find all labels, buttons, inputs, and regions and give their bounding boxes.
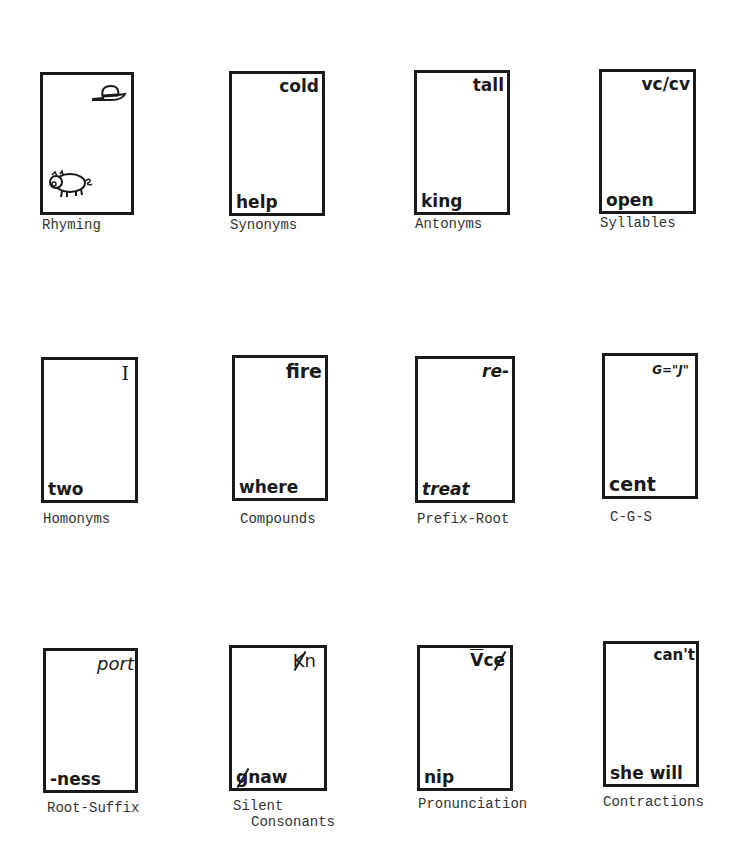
card-top-word: cold	[279, 78, 319, 95]
card-bottom-word: help	[236, 194, 278, 211]
card-label: Rhyming	[42, 217, 101, 233]
word-rest: n	[305, 650, 316, 671]
card-synonyms: cold help	[229, 71, 325, 216]
card-label: Synonyms	[230, 217, 297, 233]
card-homonyms: I two	[41, 357, 138, 503]
card-label: Antonyms	[415, 216, 482, 232]
label-line2: Consonants	[233, 814, 335, 830]
card-top-word: G="J"	[652, 364, 689, 376]
card-top-word: re-	[482, 363, 509, 380]
card-top-word: tall	[473, 77, 504, 94]
card-label: Pronunciation	[418, 796, 527, 812]
struck-letter: K	[293, 652, 305, 670]
hat-icon	[91, 83, 127, 108]
struck-letter: e	[493, 652, 505, 669]
card-top-word: Vce	[470, 652, 505, 669]
card-top-word: port	[97, 655, 134, 673]
card-rhyming	[40, 72, 134, 215]
card-top-word: can't	[654, 648, 695, 663]
card-bottom-word: nip	[424, 769, 454, 786]
macron-letter: V	[470, 650, 483, 670]
card-prefix-root: re- treat	[415, 356, 515, 503]
card-silent-consonants: Kn gnaw	[229, 645, 327, 791]
card-syllables: vc/cv open	[599, 69, 696, 214]
card-root-suffix: port -ness	[43, 648, 138, 793]
card-pronunciation: Vce nip	[417, 645, 513, 791]
card-top-word: I	[121, 364, 129, 383]
card-label: Compounds	[240, 511, 316, 527]
card-contractions: can't she will	[603, 641, 699, 787]
card-bottom-word: cent	[609, 475, 656, 494]
card-bottom-word: -ness	[50, 771, 101, 788]
card-bottom-word: king	[421, 193, 462, 210]
card-compounds: fire where	[232, 355, 328, 501]
card-label: Syllables	[600, 215, 676, 231]
card-bottom-word: she will	[610, 765, 683, 782]
card-c-g-s: G="J" cent	[602, 353, 698, 499]
card-bottom-word: open	[606, 192, 653, 209]
card-bottom-word: two	[48, 481, 84, 498]
struck-letter: g	[236, 769, 248, 786]
card-label: Prefix-Root	[417, 511, 509, 527]
card-top-word: Kn	[293, 652, 316, 670]
card-bottom-word: treat	[422, 481, 470, 498]
card-label: Contractions	[603, 794, 704, 810]
card-label: Homonyms	[43, 511, 110, 527]
word-mid: c	[483, 650, 493, 670]
card-label: C-G-S	[610, 509, 652, 525]
card-label: Root-Suffix	[47, 800, 139, 816]
card-antonyms: tall king	[414, 70, 510, 215]
pig-icon	[48, 169, 94, 204]
card-bottom-word: gnaw	[236, 769, 287, 786]
card-bottom-word: where	[239, 479, 298, 496]
card-top-word: fire	[286, 362, 322, 381]
word-rest: naw	[248, 767, 287, 787]
card-label: SilentConsonants	[233, 798, 335, 830]
label-line1: Silent	[233, 798, 283, 814]
card-top-word: vc/cv	[641, 76, 690, 93]
